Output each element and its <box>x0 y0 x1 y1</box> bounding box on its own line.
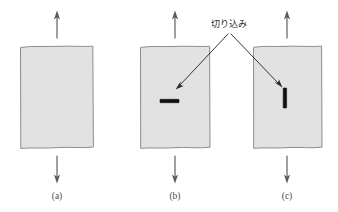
tension-arrow-up-c <box>284 11 290 39</box>
tension-arrow-down-b <box>172 156 178 184</box>
panel-c: (c) <box>254 11 323 203</box>
panel-a: (a) <box>21 11 94 203</box>
notch-diagram-figure: (a) (b) <box>0 0 338 212</box>
tension-arrow-up-b <box>172 11 178 39</box>
notch-annotation-label: 切り込み <box>211 19 247 29</box>
sheet-b <box>141 46 211 148</box>
panel-caption-a: (a) <box>52 191 63 202</box>
panel-caption-b: (b) <box>169 191 180 202</box>
sheet-c <box>254 46 323 148</box>
notch-horizontal-b <box>160 99 179 102</box>
sheet-a <box>21 46 94 148</box>
notch-vertical-c <box>283 88 286 108</box>
figure-container: (a) (b) <box>0 0 338 212</box>
panel-caption-c: (c) <box>282 191 293 202</box>
tension-arrow-down-c <box>284 156 290 184</box>
panel-b: (b) <box>141 11 211 203</box>
tension-arrow-down-a <box>54 156 60 184</box>
tension-arrow-up-a <box>54 11 60 39</box>
